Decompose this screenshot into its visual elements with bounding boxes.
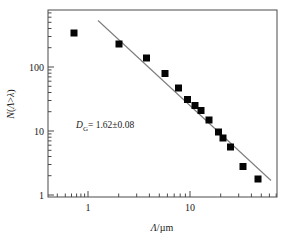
data-point xyxy=(198,107,205,114)
y-tick-label-100: 100 xyxy=(29,62,44,73)
annotation-symbol: D xyxy=(75,120,83,130)
data-point xyxy=(71,30,78,37)
x-tick-labels: 1 10 xyxy=(86,202,196,213)
data-point xyxy=(116,41,123,48)
data-point xyxy=(255,176,262,183)
svg-text:Λ/µm: Λ/µm xyxy=(150,222,174,233)
data-point xyxy=(240,163,247,170)
svg-text:N(Λ>λ): N(Λ>λ) xyxy=(5,89,17,119)
svg-text:DG= 1.62±0.08: DG= 1.62±0.08 xyxy=(75,120,134,133)
y-axis-title-lambda-cap: Λ xyxy=(5,103,16,110)
annotation-value: = 1.62±0.08 xyxy=(88,120,134,130)
x-tick-label-10: 10 xyxy=(185,202,195,213)
y-tick-labels: 100 10 1 xyxy=(29,62,44,201)
y-axis-ticks xyxy=(48,13,54,195)
x-axis-ticks xyxy=(57,191,276,197)
data-point xyxy=(192,102,199,109)
x-axis-title-symbol: Λ xyxy=(150,222,157,233)
x-axis-title: Λ/µm xyxy=(150,222,174,233)
data-point xyxy=(175,85,182,92)
y-axis-title-close: ) xyxy=(5,89,17,92)
data-point xyxy=(206,117,213,124)
annotation-fractal-dimension: DG= 1.62±0.08 xyxy=(75,120,134,133)
data-point xyxy=(215,129,222,136)
x-tick-label-1: 1 xyxy=(86,202,91,213)
data-point xyxy=(220,135,227,142)
y-tick-label-10: 10 xyxy=(34,126,44,137)
figure-container: 100 10 1 1 10 Λ/µm N(Λ>λ) xyxy=(0,0,292,241)
log-log-scatter-plot: 100 10 1 1 10 Λ/µm N(Λ>λ) xyxy=(0,0,292,241)
data-point xyxy=(143,55,150,62)
y-axis-title: N(Λ>λ) xyxy=(5,89,17,119)
data-point xyxy=(162,70,169,77)
y-tick-label-1: 1 xyxy=(39,190,44,201)
x-axis-title-unit: /µm xyxy=(157,222,174,233)
data-point xyxy=(227,144,234,151)
data-point xyxy=(184,96,191,103)
data-series-markers xyxy=(71,30,262,183)
